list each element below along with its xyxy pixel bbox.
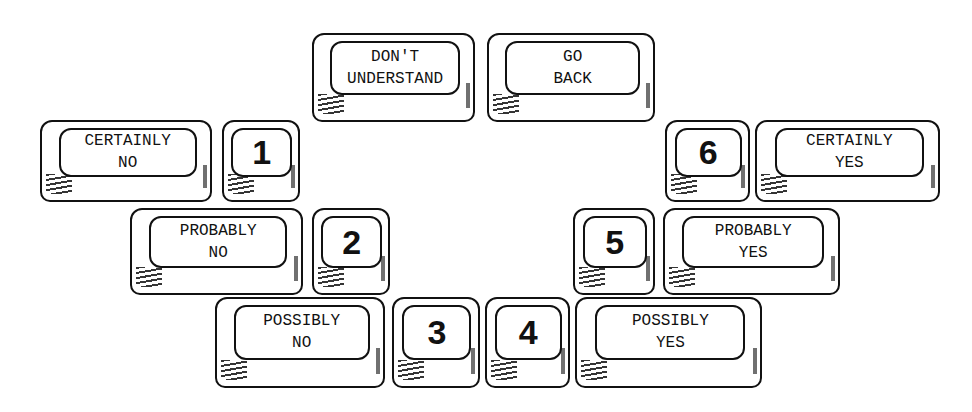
key-label: 1 [252,133,271,172]
hatch-shading-icon [579,267,605,287]
key-label: CERTAINLY YES [806,130,892,174]
key-label: GO BACK [553,46,591,90]
key-label: POSSIBLY NO [263,310,340,354]
key-cap: PROBABLY YES [682,216,824,268]
key-cap: DON'T UNDERSTAND [330,41,460,95]
hatch-shading-icon [318,267,344,287]
hatch-shading-icon [228,174,254,194]
key-cap: POSSIBLY YES [595,305,745,360]
key-cap: 5 [583,216,647,268]
key-cap: POSSIBLY NO [234,305,370,360]
hatch-shading-icon [581,360,607,380]
key-cap: 6 [675,128,741,177]
key-label: POSSIBLY YES [632,310,709,354]
edge-shading-icon [466,83,470,109]
certainly-yes-key[interactable]: CERTAINLY YES [755,120,940,202]
hatch-shading-icon [46,174,72,194]
edge-shading-icon [753,348,757,374]
key-cap: 4 [495,305,561,360]
key-label: PROBABLY YES [715,220,792,264]
edge-shading-icon [291,165,295,188]
edge-shading-icon [931,165,935,188]
key-label: PROBABLY NO [180,220,257,264]
edge-shading-icon [561,348,565,374]
edge-shading-icon [741,165,745,188]
edge-shading-icon [376,348,380,374]
key-cap: CERTAINLY NO [59,128,197,177]
edge-shading-icon [381,256,385,281]
edge-shading-icon [646,83,650,109]
go-back-key[interactable]: GO BACK [487,33,655,122]
hatch-shading-icon [671,174,697,194]
key-label: 5 [605,223,624,262]
key-cap: 2 [321,216,382,268]
num-6-key[interactable]: 6 [665,120,750,202]
edge-shading-icon [294,256,298,281]
dont-understand-key[interactable]: DON'T UNDERSTAND [312,33,475,122]
key-label: 3 [427,313,446,352]
key-cap: 3 [402,305,471,360]
num-5-key[interactable]: 5 [573,208,655,295]
edge-shading-icon [646,256,650,281]
hatch-shading-icon [398,360,424,380]
certainly-no-key[interactable]: CERTAINLY NO [40,120,212,202]
edge-shading-icon [831,256,835,281]
key-label: 4 [519,313,538,352]
probably-no-key[interactable]: PROBABLY NO [130,208,303,295]
hatch-shading-icon [761,174,787,194]
probably-yes-key[interactable]: PROBABLY YES [663,208,840,295]
key-label: 2 [342,223,361,262]
key-label: 6 [699,133,718,172]
hatch-shading-icon [491,360,517,380]
num-4-key[interactable]: 4 [485,297,570,388]
num-1-key[interactable]: 1 [222,120,300,202]
num-2-key[interactable]: 2 [312,208,390,295]
hatch-shading-icon [136,267,162,287]
hatch-shading-icon [221,360,247,380]
num-3-key[interactable]: 3 [392,297,480,388]
possibly-no-key[interactable]: POSSIBLY NO [215,297,385,388]
key-label: DON'T UNDERSTAND [347,46,443,90]
key-cap: PROBABLY NO [149,216,288,268]
edge-shading-icon [203,165,207,188]
key-cap: 1 [231,128,292,177]
edge-shading-icon [471,348,475,374]
hatch-shading-icon [669,267,695,287]
hatch-shading-icon [493,94,519,114]
key-label: CERTAINLY NO [84,130,170,174]
possibly-yes-key[interactable]: POSSIBLY YES [575,297,762,388]
hatch-shading-icon [318,94,344,114]
key-cap: GO BACK [505,41,640,95]
key-cap: CERTAINLY YES [775,128,923,177]
